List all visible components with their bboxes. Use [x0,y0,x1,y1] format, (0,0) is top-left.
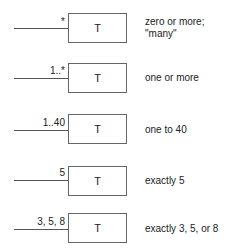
description: one or more [145,72,199,84]
multiplicity-label: 5 [59,167,65,178]
class-name: T [94,175,101,187]
row-many: * T zero or more; "many" [0,13,237,45]
association-line [14,229,68,230]
row-exactly-five: 5 T exactly 5 [0,166,237,198]
description: zero or more; "many" [145,16,204,40]
multiplicity-label: 1..* [50,65,65,76]
description-line-2: "many" [145,28,204,40]
association-line [14,78,68,79]
row-exactly-three-five-eight: 3, 5, 8 T exactly 3, 5, or 8 [0,213,237,245]
class-name: T [94,123,101,135]
class-name: T [94,222,101,234]
row-one-or-more: 1..* T one or more [0,63,237,95]
class-box: T [68,213,127,243]
class-box: T [68,114,127,144]
multiplicity-label: 1..40 [43,117,65,128]
class-box: T [68,13,127,43]
association-line [14,28,68,29]
association-line [14,130,68,131]
association-line [14,180,68,181]
multiplicity-label: * [61,16,65,27]
class-name: T [94,22,101,34]
row-one-to-forty: 1..40 T one to 40 [0,114,237,146]
description-line-1: zero or more; [145,16,204,28]
description: exactly 5 [145,175,184,187]
class-name: T [94,72,101,84]
class-box: T [68,63,127,93]
multiplicity-label: 3, 5, 8 [37,216,65,227]
class-box: T [68,166,127,196]
description: one to 40 [145,124,187,136]
description: exactly 3, 5, or 8 [145,223,218,235]
